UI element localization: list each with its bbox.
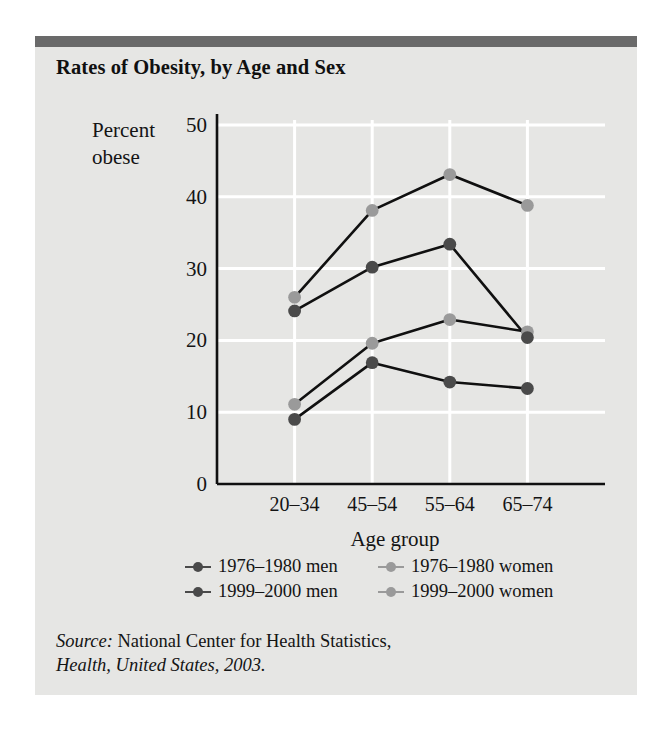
data-point-marker <box>366 204 379 217</box>
legend-item-1999-2000-women[interactable]: 1999–2000 women <box>378 581 553 602</box>
gridlines <box>217 120 605 484</box>
y-tick-label: 10 <box>186 400 207 424</box>
y-axis-tick-labels: 01020304050 <box>186 113 207 496</box>
source-agency: National Center for Health Statistics, <box>117 631 391 651</box>
legend-label: 1999–2000 men <box>218 581 338 602</box>
series-line <box>295 320 528 405</box>
legend-marker-icon <box>378 586 404 598</box>
x-category-label: 65–74 <box>502 493 552 515</box>
legend-item-1976-1980-women[interactable]: 1976–1980 women <box>378 556 553 577</box>
data-point-marker <box>443 168 456 181</box>
axis-titles: Age groupPercentobese <box>92 118 440 551</box>
legend-label: 1976–1980 men <box>218 556 338 577</box>
legend-label: 1976–1980 women <box>411 556 553 577</box>
y-tick-label: 30 <box>186 257 207 281</box>
y-tick-label: 50 <box>186 113 207 137</box>
data-point-marker <box>366 337 379 350</box>
y-axis-title: obese <box>92 145 140 169</box>
data-point-marker <box>366 356 379 369</box>
figure-panel: Rates of Obesity, by Age and Sex 0102030… <box>35 36 637 695</box>
legend-item-1999-2000-men[interactable]: 1999–2000 men <box>185 581 378 602</box>
x-category-label: 20–34 <box>270 493 320 515</box>
x-category-label: 45–54 <box>347 493 397 515</box>
x-axis-title: Age group <box>350 527 439 551</box>
legend-marker-icon <box>378 561 404 573</box>
legend-marker-icon <box>185 586 211 598</box>
source-label: Source: <box>56 631 113 651</box>
legend-row: 1976–1980 men 1976–1980 women <box>185 554 605 579</box>
legend-label: 1999–2000 women <box>411 581 553 602</box>
x-category-label: 55–64 <box>425 493 475 515</box>
data-point-marker <box>521 382 534 395</box>
legend-item-1976-1980-men[interactable]: 1976–1980 men <box>185 556 378 577</box>
source-publication: Health, United States, 2003. <box>56 655 266 675</box>
axis-lines <box>217 114 605 484</box>
legend-row: 1999–2000 men 1999–2000 women <box>185 579 605 604</box>
data-point-marker <box>366 261 379 274</box>
data-point-marker <box>443 313 456 326</box>
data-point-marker <box>288 291 301 304</box>
series-lines <box>295 175 528 420</box>
y-tick-label: 40 <box>186 185 207 209</box>
data-point-marker <box>521 199 534 212</box>
y-tick-label: 0 <box>197 472 208 496</box>
data-point-marker <box>443 376 456 389</box>
legend-marker-icon <box>185 561 211 573</box>
source-note: Source: National Center for Health Stati… <box>56 630 616 677</box>
chart-legend: 1976–1980 men 1976–1980 women 1999–2000 … <box>185 554 605 604</box>
data-point-marker <box>521 331 534 344</box>
y-tick-label: 20 <box>186 328 207 352</box>
data-point-marker <box>288 398 301 411</box>
data-point-marker <box>288 413 301 426</box>
y-axis-title: Percent <box>92 118 155 142</box>
data-point-marker <box>288 305 301 318</box>
x-axis-category-labels: 20–3445–5455–6465–74 <box>270 493 553 515</box>
series-line <box>295 175 528 298</box>
data-point-marker <box>443 238 456 251</box>
